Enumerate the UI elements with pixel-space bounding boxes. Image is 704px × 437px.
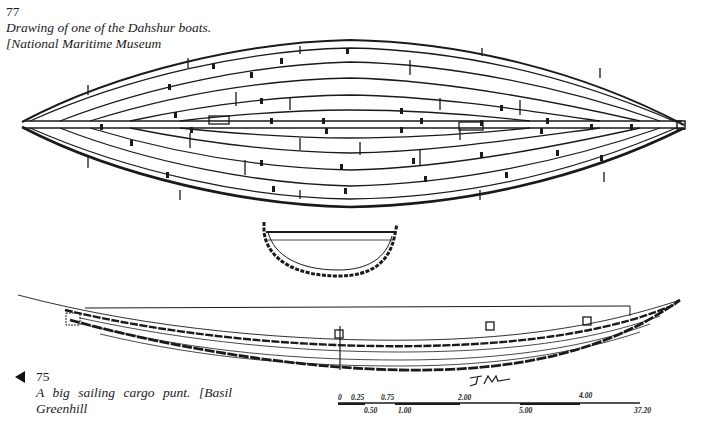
figure-75-number: 75 [36,369,232,385]
scale-label-4-00: 4.00 [578,391,592,400]
side-elevation-cargo-punt [18,295,680,370]
scale-label-0-25: 0.25 [351,393,364,402]
scale-label-0: 0 [338,393,342,402]
pointer-arrow-icon [15,371,25,383]
plan-view-dahshur-boat [22,40,684,207]
scale-label-2-00: 2.00 [457,393,471,402]
scale-label-0-50: 0.50 [364,406,377,415]
artist-signature [470,376,510,386]
scale-label-0-75: 0.75 [381,393,394,402]
scale-label-end: 37.20 [633,406,651,415]
scale-label-1-00: 1.00 [398,406,411,415]
figure-75-caption: 75 A big sailing cargo punt. [Basil Gree… [36,369,232,417]
figure-75-caption-text: A big sailing cargo punt. [Basil Greenhi… [36,385,232,417]
scale-bar: 0 0.25 0.75 2.00 4.00 0.50 1.00 5.00 37.… [338,391,651,415]
scale-label-3-00: 5.00 [519,406,532,415]
boat-cross-section [264,222,397,276]
